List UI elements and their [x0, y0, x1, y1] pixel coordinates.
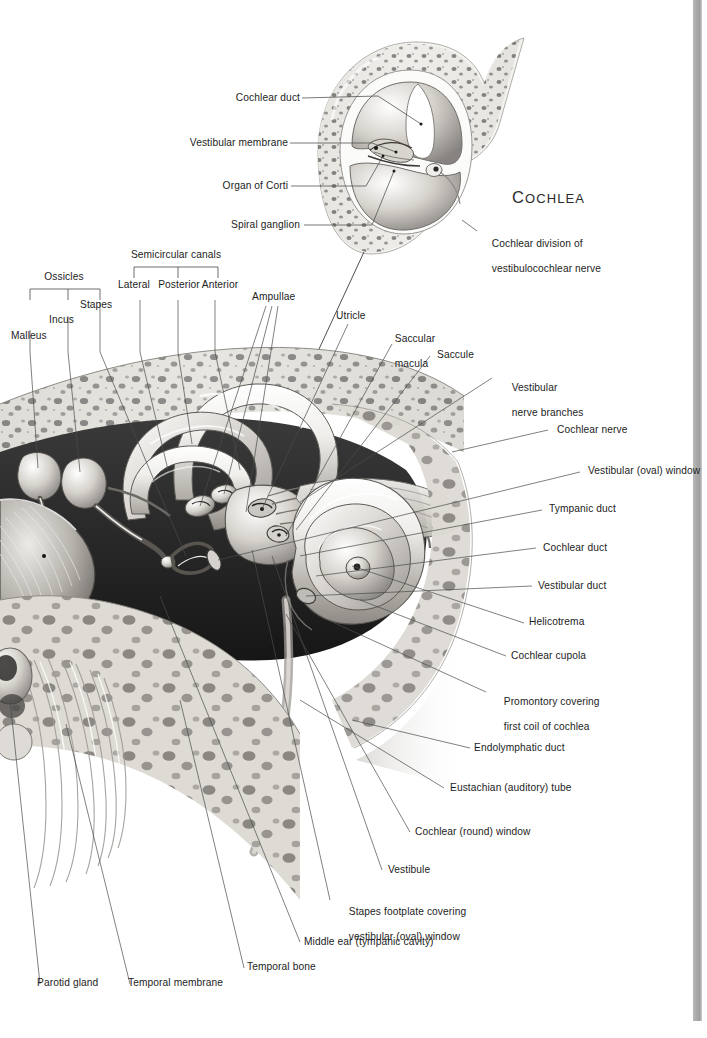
- label-tympanic-duct: Tympanic duct: [549, 503, 616, 515]
- label-cochlear-cupola: Cochlear cupola: [511, 650, 586, 662]
- label-parotid-gland: Parotid gland: [37, 977, 98, 989]
- label-endolymphatic-duct: Endolymphatic duct: [474, 742, 565, 754]
- label-cochlear-division-nerve: Cochlear division of vestibulocochlear n…: [480, 226, 601, 288]
- label-vestibule: Vestibule: [388, 864, 430, 876]
- main-ear-illustration: [0, 347, 472, 950]
- cochlea-title: COCHLEA: [512, 188, 585, 207]
- vestibular-nerve-line1: Vestibular: [512, 382, 558, 393]
- label-ossicles: Ossicles: [26, 271, 102, 283]
- stapes-footplate-line1: Stapes footplate covering: [349, 906, 466, 917]
- cochlear-division-line1: Cochlear division of: [492, 238, 583, 249]
- label-middle-ear: Middle ear (tympanic cavity): [304, 936, 434, 948]
- anatomy-plate: COCHLEA Cochlear duct Vestibular membran…: [0, 0, 707, 1038]
- label-incus: Incus: [49, 314, 74, 326]
- label-cochlear-round-window: Cochlear (round) window: [415, 826, 531, 838]
- label-vestibular-nerve-branches: Vestibular nerve branches: [500, 370, 583, 432]
- label-promontory: Promontory covering first coil of cochle…: [492, 684, 600, 746]
- page-gutter-band: [693, 0, 702, 1021]
- label-helicotrema: Helicotrema: [529, 616, 584, 628]
- saccular-macula-line2: macula: [395, 358, 428, 369]
- promontory-line1: Promontory covering: [504, 696, 600, 707]
- label-temporal-bone: Temporal bone: [247, 961, 316, 973]
- label-utricle: Utricle: [336, 310, 366, 322]
- saccular-macula-line1: Saccular: [395, 333, 435, 344]
- label-semicircular-canals: Semicircular canals: [116, 249, 236, 261]
- label-stapes: Stapes: [80, 299, 112, 311]
- cochlear-division-line2: vestibulocochlear nerve: [492, 263, 601, 274]
- label-eustachian-tube: Eustachian (auditory) tube: [450, 782, 572, 794]
- ear-anatomy-illustration: [0, 0, 707, 1038]
- label-ampullae: Ampullae: [252, 291, 295, 303]
- label-anterior: Anterior: [196, 279, 244, 291]
- label-lateral: Lateral: [112, 279, 156, 291]
- cochlea-title-initial: C: [512, 188, 525, 206]
- label-vestibular-membrane: Vestibular membrane: [120, 137, 288, 149]
- label-cochlear-duct-inset: Cochlear duct: [140, 92, 300, 104]
- label-malleus: Malleus: [11, 330, 47, 342]
- label-saccule: Saccule: [437, 349, 474, 361]
- label-temporal-membrane: Temporal membrane: [128, 977, 223, 989]
- label-vestibular-duct: Vestibular duct: [538, 580, 606, 592]
- cochlea-title-rest: OCHLEA: [525, 191, 585, 206]
- label-vestibular-oval-window: Vestibular (oval) window: [588, 465, 700, 477]
- label-organ-of-corti: Organ of Corti: [130, 180, 288, 192]
- label-spiral-ganglion: Spiral ganglion: [140, 219, 300, 231]
- promontory-line2: first coil of cochlea: [504, 721, 590, 732]
- label-saccular-macula: Saccular macula: [383, 321, 435, 383]
- label-cochlear-duct-main: Cochlear duct: [543, 542, 607, 554]
- label-cochlear-nerve: Cochlear nerve: [557, 424, 627, 436]
- vestibular-nerve-line2: nerve branches: [512, 407, 584, 418]
